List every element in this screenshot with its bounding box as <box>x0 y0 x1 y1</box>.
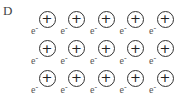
electron-charge: - <box>35 83 38 92</box>
electron-charge: - <box>153 54 156 63</box>
delocalised-electron: e- <box>149 25 156 36</box>
positive-ion: + <box>127 11 144 28</box>
positive-ion: + <box>127 70 144 87</box>
delocalised-electron: e- <box>31 84 38 95</box>
positive-ion: + <box>68 70 85 87</box>
plus-icon: + <box>71 71 82 84</box>
electron-charge: - <box>94 54 97 63</box>
positive-ion: + <box>157 70 174 87</box>
positive-ion: + <box>68 40 85 57</box>
positive-ion: + <box>157 11 174 28</box>
delocalised-electron: e- <box>90 55 97 66</box>
positive-ion: + <box>127 40 144 57</box>
plus-icon: + <box>42 42 53 55</box>
plus-icon: + <box>101 12 112 25</box>
delocalised-electron: e- <box>61 55 68 66</box>
delocalised-electron: e- <box>120 84 127 95</box>
electron-charge: - <box>124 83 127 92</box>
delocalised-electron: e- <box>90 84 97 95</box>
delocalised-electron: e- <box>149 55 156 66</box>
positive-ion: + <box>98 40 115 57</box>
electron-charge: - <box>94 24 97 33</box>
plus-icon: + <box>160 71 171 84</box>
delocalised-electron: e- <box>90 25 97 36</box>
electron-charge: - <box>65 54 68 63</box>
electron-charge: - <box>35 54 38 63</box>
delocalised-electron: e- <box>149 84 156 95</box>
positive-ion: + <box>39 40 56 57</box>
electron-charge: - <box>65 24 68 33</box>
electron-charge: - <box>35 24 38 33</box>
electron-charge: - <box>153 83 156 92</box>
positive-ion: + <box>39 70 56 87</box>
positive-ion: + <box>68 11 85 28</box>
delocalised-electron: e- <box>120 55 127 66</box>
delocalised-electron: e- <box>31 55 38 66</box>
delocalised-electron: e- <box>61 25 68 36</box>
plus-icon: + <box>71 12 82 25</box>
plus-icon: + <box>42 12 53 25</box>
positive-ion: + <box>39 11 56 28</box>
plus-icon: + <box>101 71 112 84</box>
electron-charge: - <box>94 83 97 92</box>
electron-charge: - <box>124 24 127 33</box>
plus-icon: + <box>101 42 112 55</box>
delocalised-electron: e- <box>61 84 68 95</box>
electron-charge: - <box>153 24 156 33</box>
plus-icon: + <box>42 71 53 84</box>
plus-icon: + <box>71 42 82 55</box>
plus-icon: + <box>130 71 141 84</box>
positive-ion: + <box>98 70 115 87</box>
plus-icon: + <box>130 42 141 55</box>
positive-ion: + <box>98 11 115 28</box>
plus-icon: + <box>160 12 171 25</box>
delocalised-electron: e- <box>31 25 38 36</box>
metallic-lattice-diagram: +e-+e-+e-+e-+e-+e-+e-+e-+e-+e-+e-+e-+e-+… <box>0 0 186 101</box>
positive-ion: + <box>157 40 174 57</box>
delocalised-electron: e- <box>120 25 127 36</box>
plus-icon: + <box>160 42 171 55</box>
electron-charge: - <box>65 83 68 92</box>
plus-icon: + <box>130 12 141 25</box>
electron-charge: - <box>124 54 127 63</box>
